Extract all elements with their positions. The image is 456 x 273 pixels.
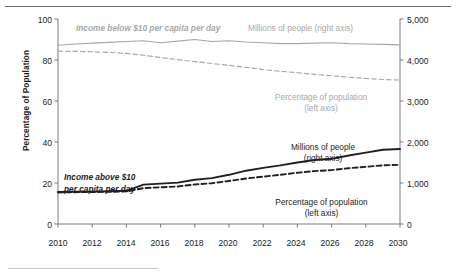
chart-figure: Percentage of Population Millions of Per…: [0, 0, 456, 273]
chart-plot-area: [0, 0, 456, 273]
